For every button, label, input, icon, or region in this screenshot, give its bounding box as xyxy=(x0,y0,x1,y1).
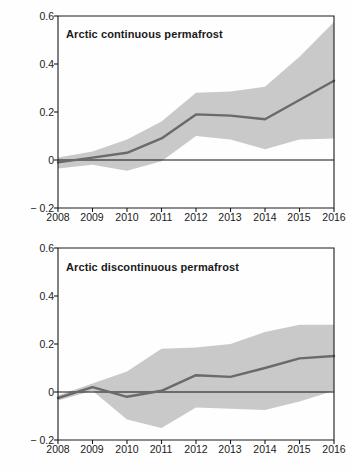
x-tick-label: 2010 xyxy=(115,443,138,455)
x-tick-label: 2011 xyxy=(150,443,173,455)
figure-container: 0.6 0.4 0.2 0 − 0.2 Arctic continuous pe… xyxy=(0,0,351,473)
x-tick-label: 2014 xyxy=(253,211,276,223)
chart-panel-continuous-permafrost: 0.6 0.4 0.2 0 − 0.2 Arctic continuous pe… xyxy=(0,0,351,236)
x-axis-ticks-panel-2: 2008 2009 2010 2011 2012 2013 2014 2015 … xyxy=(0,443,351,461)
x-tick-label: 2009 xyxy=(80,443,103,455)
plot-area-panel-2 xyxy=(0,236,351,472)
x-tick-label: 2010 xyxy=(115,211,138,223)
x-tick-label: 2011 xyxy=(150,211,173,223)
x-tick-label: 2015 xyxy=(287,211,310,223)
x-axis-ticks-panel-1: 2008 2009 2010 2011 2012 2013 2014 2015 … xyxy=(0,211,351,229)
x-tick-label: 2015 xyxy=(287,443,310,455)
chart-panel-discontinuous-permafrost: 0.6 0.4 0.2 0 − 0.2 Arctic discontinuous… xyxy=(0,236,351,472)
x-tick-label: 2008 xyxy=(46,443,69,455)
x-tick-label: 2014 xyxy=(253,443,276,455)
x-tick-label: 2013 xyxy=(218,211,241,223)
plot-area-panel-1 xyxy=(0,0,351,236)
x-tick-label: 2013 xyxy=(218,443,241,455)
x-tick-label: 2016 xyxy=(322,211,345,223)
x-tick-label: 2008 xyxy=(46,211,69,223)
x-tick-label: 2012 xyxy=(184,211,207,223)
x-tick-label: 2009 xyxy=(80,211,103,223)
x-tick-label: 2016 xyxy=(322,443,345,455)
x-tick-label: 2012 xyxy=(184,443,207,455)
uncertainty-band xyxy=(58,22,334,171)
